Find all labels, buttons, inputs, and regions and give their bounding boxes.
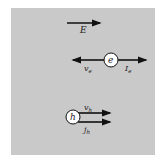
- diagram-canvas: E e ve Ie h vh jh: [0, 0, 166, 166]
- electron-group: e ve Ie: [73, 53, 146, 74]
- hole-symbol: h: [70, 112, 76, 122]
- hole-velocity-label: vh: [84, 103, 93, 113]
- electric-field-arrow: E: [67, 23, 100, 35]
- hole-group: h vh jh: [66, 103, 110, 135]
- electron-velocity-label: ve: [84, 64, 93, 74]
- hole-current-label: jh: [82, 125, 90, 135]
- electron-symbol: e: [108, 55, 113, 65]
- electron-current-label: Ie: [124, 64, 132, 74]
- field-label: E: [79, 25, 87, 35]
